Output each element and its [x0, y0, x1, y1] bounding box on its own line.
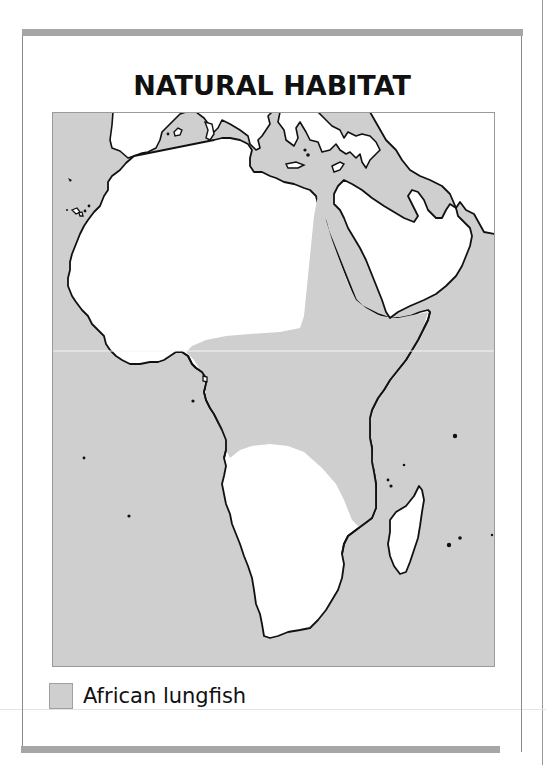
africa-map-graphic	[52, 112, 495, 667]
panel-top-bar	[22, 29, 523, 36]
mauritius-dot	[447, 543, 451, 547]
map-legend: African lungfish	[49, 683, 246, 709]
island-dot	[403, 464, 406, 467]
island-dot	[88, 205, 91, 208]
comoros-dot	[387, 479, 390, 482]
canary-island-2	[79, 212, 83, 216]
island-dot	[306, 153, 310, 157]
island-dot	[127, 514, 130, 517]
island-dot	[84, 210, 87, 213]
reunion-dot	[458, 536, 462, 540]
island-dot	[303, 148, 306, 151]
seychelles-dot	[453, 434, 457, 438]
island-dot	[66, 209, 68, 211]
page-edge-rule	[542, 0, 543, 765]
bioko-island	[203, 376, 207, 382]
panel-title: NATURAL HABITAT	[22, 70, 522, 101]
legend-swatch-habitat	[49, 683, 73, 709]
island-dot	[191, 399, 194, 402]
legend-label: African lungfish	[83, 683, 246, 709]
habitat-map	[52, 112, 495, 667]
panel-bottom-bar	[21, 746, 500, 753]
island-dot	[491, 534, 493, 536]
comoros-dot	[389, 484, 392, 487]
island-dot	[167, 133, 170, 136]
island-dot	[83, 457, 86, 460]
